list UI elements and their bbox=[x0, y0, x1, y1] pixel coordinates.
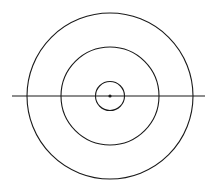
center-point bbox=[108, 94, 111, 97]
concentric-circles-diagram bbox=[0, 0, 214, 190]
diagram-svg bbox=[0, 0, 214, 190]
